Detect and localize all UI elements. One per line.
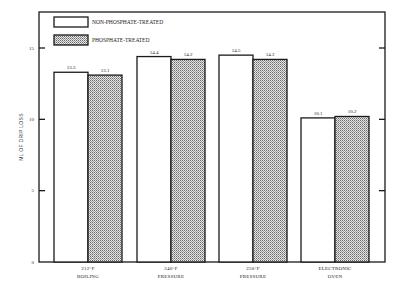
y-tick-label-0: 0 bbox=[32, 260, 35, 265]
legend-swatch-phosphate bbox=[54, 35, 88, 45]
y-tick-label-5: 5 bbox=[32, 188, 35, 193]
category-label-2-line-0: 250°F bbox=[246, 266, 259, 271]
bar-phosphate-3 bbox=[335, 116, 369, 262]
bar-value-label: 14.2 bbox=[266, 52, 275, 57]
legend-label-non-phosphate: NON-PHOSPHATE-TREATED bbox=[92, 19, 163, 25]
bar-non-phosphate-2 bbox=[219, 55, 253, 262]
category-label-3-line-0: ELECTRONIC bbox=[318, 266, 352, 271]
bar-value-label: 13.1 bbox=[101, 68, 110, 73]
bar-phosphate-1 bbox=[171, 59, 205, 262]
category-label-0-line-0: 212°F bbox=[81, 266, 94, 271]
bars-group: 13.314.414.510.113.114.214.210.2 bbox=[54, 48, 369, 262]
category-label-2-line-1: PRESSURE bbox=[240, 274, 266, 279]
bar-phosphate-0 bbox=[88, 75, 122, 262]
bar-phosphate-2 bbox=[253, 59, 287, 262]
category-label-1-line-0: 240°F bbox=[164, 266, 177, 271]
legend-swatch-non-phosphate bbox=[54, 17, 88, 27]
category-label-0-line-1: BOILING bbox=[77, 274, 99, 279]
legend: NON-PHOSPHATE-TREATED PHOSPHATE-TREATED bbox=[54, 17, 163, 45]
y-tick-label-10: 10 bbox=[29, 117, 35, 122]
x-axis-category-labels: 212°FBOILING240°FPRESSURE250°FPRESSUREEL… bbox=[77, 266, 352, 279]
legend-label-phosphate: PHOSPHATE-TREATED bbox=[92, 37, 149, 43]
bar-non-phosphate-0 bbox=[54, 72, 88, 262]
bar-value-label: 14.5 bbox=[232, 48, 241, 53]
bar-value-label: 13.3 bbox=[67, 65, 76, 70]
bar-chart: 051015 ML OF DRIP LOSS 13.314.414.510.11… bbox=[0, 0, 399, 289]
bar-value-label: 14.4 bbox=[150, 50, 159, 55]
bar-value-label: 10.1 bbox=[314, 111, 323, 116]
bar-non-phosphate-1 bbox=[137, 57, 171, 262]
bar-value-label: 10.2 bbox=[348, 109, 357, 114]
category-label-1-line-1: PRESSURE bbox=[158, 274, 184, 279]
y-axis-title: ML OF DRIP LOSS bbox=[18, 113, 24, 161]
bar-non-phosphate-3 bbox=[301, 118, 335, 262]
bar-value-label: 14.2 bbox=[184, 52, 193, 57]
category-label-3-line-1: OVEN bbox=[328, 274, 343, 279]
y-tick-label-15: 15 bbox=[29, 46, 35, 51]
